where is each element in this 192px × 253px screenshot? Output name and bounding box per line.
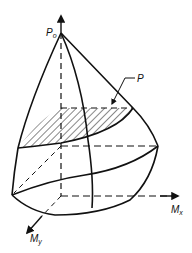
plane-label: P bbox=[137, 73, 144, 84]
bottom-front-curve bbox=[12, 146, 158, 215]
hatched-plane-section bbox=[18, 108, 133, 148]
plane-label-leader bbox=[112, 78, 135, 104]
interaction-diagram: Po P Mx My bbox=[0, 0, 192, 253]
mid-wave-curve bbox=[12, 146, 158, 195]
my-axis-arrow bbox=[27, 216, 42, 233]
mx-label: Mx bbox=[171, 204, 183, 216]
my-label: My bbox=[30, 233, 42, 246]
apex-label: Po bbox=[46, 27, 57, 39]
